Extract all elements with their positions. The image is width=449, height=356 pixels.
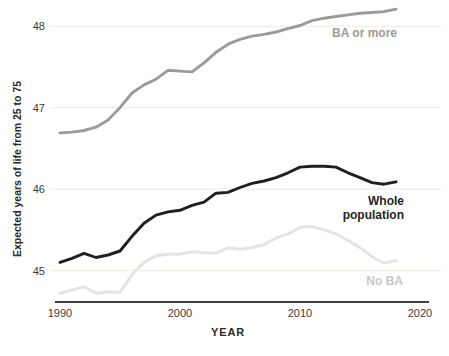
series-label-no-ba: No BA [366, 274, 403, 288]
chart-container: 45464748 1990200020102020 BA or moreWhol… [0, 0, 449, 356]
series-label-whole-population: Wholepopulation [343, 194, 405, 222]
gridlines [50, 26, 441, 270]
y-tick-label-48: 48 [33, 20, 45, 32]
data-series-lines [60, 9, 396, 293]
x-tick-label-2020: 2020 [408, 307, 432, 319]
y-tick-label-47: 47 [33, 102, 45, 114]
series-label-line: No BA [366, 274, 403, 288]
y-axis-title: Expected years of life from 25 to 75 [11, 81, 23, 257]
series-label-ba-or-more: BA or more [332, 26, 397, 40]
x-axis-tick-labels: 1990200020102020 [48, 307, 432, 319]
y-axis-tick-labels: 45464748 [33, 20, 45, 276]
y-tick-label-46: 46 [33, 183, 45, 195]
series-label-line: population [343, 208, 404, 222]
y-tick-label-45: 45 [33, 265, 45, 277]
series-line-no-ba [60, 227, 396, 294]
x-tick-label-1990: 1990 [48, 307, 72, 319]
life-expectancy-line-chart: 45464748 1990200020102020 BA or moreWhol… [0, 0, 449, 356]
series-label-line: Whole [368, 194, 404, 208]
series-label-line: BA or more [332, 26, 397, 40]
data-series-labels: BA or moreWholepopulationNo BA [332, 26, 404, 288]
x-tick-label-2000: 2000 [168, 307, 192, 319]
x-axis-title: YEAR [211, 326, 245, 338]
x-tick-label-2010: 2010 [288, 307, 312, 319]
